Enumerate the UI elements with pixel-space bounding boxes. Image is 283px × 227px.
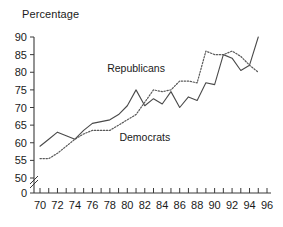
x-tick-label: 70 — [34, 199, 46, 211]
x-tick-label: 78 — [104, 199, 116, 211]
x-tick-label: 96 — [261, 199, 273, 211]
line-chart-plot: 0505560657075808590 70727476788082848688… — [0, 0, 283, 227]
y-tick-label: 75 — [15, 84, 27, 96]
x-tick-label: 94 — [243, 199, 255, 211]
y-axis-labels: 0505560657075808590 — [15, 31, 27, 199]
x-tick-label: 72 — [51, 199, 63, 211]
y-tick-label: 70 — [15, 102, 27, 114]
y-tick-label: 85 — [15, 49, 27, 61]
chart-container: Percentage 0505560657075808590 707274767… — [0, 0, 283, 227]
x-axis-ticks — [40, 188, 267, 193]
x-tick-label: 82 — [139, 199, 151, 211]
x-tick-label: 88 — [191, 199, 203, 211]
y-tick-label: 55 — [15, 154, 27, 166]
x-tick-label: 86 — [174, 199, 186, 211]
y-tick-label: 0 — [21, 187, 27, 199]
y-tick-label: 50 — [15, 172, 27, 184]
x-tick-label: 80 — [121, 199, 133, 211]
x-tick-label: 90 — [208, 199, 220, 211]
x-tick-label: 76 — [86, 199, 98, 211]
y-tick-label: 80 — [15, 66, 27, 78]
y-tick-label: 65 — [15, 119, 27, 131]
series-label-democrats: Democrats — [119, 131, 170, 143]
x-tick-label: 84 — [156, 199, 168, 211]
x-axis-labels: 7072747678808284868890929496 — [34, 199, 273, 211]
y-tick-label: 90 — [15, 31, 27, 43]
x-tick-label: 92 — [226, 199, 238, 211]
y-tick-label: 60 — [15, 137, 27, 149]
y-axis-ticks — [30, 37, 34, 193]
x-tick-label: 74 — [69, 199, 81, 211]
series-label-republicans: Republicans — [107, 62, 165, 74]
